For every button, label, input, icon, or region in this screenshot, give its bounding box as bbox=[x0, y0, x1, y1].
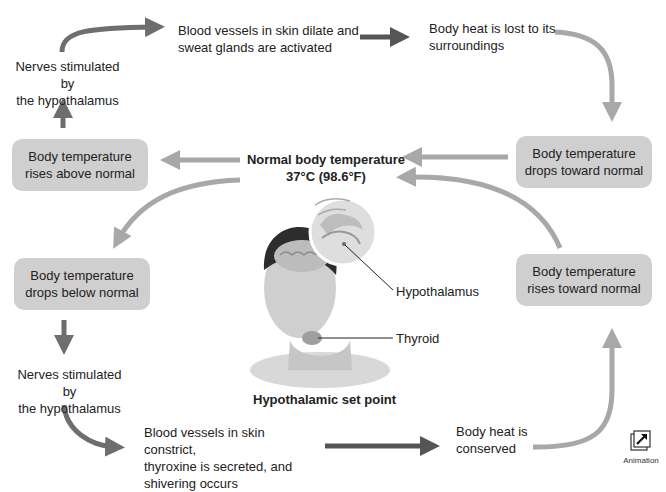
arrow-nerves-to-dilate bbox=[62, 27, 155, 52]
box-text: Body temperature bbox=[25, 267, 138, 284]
thyroid-label: Thyroid bbox=[396, 331, 439, 346]
top-result-text: Body heat is lost to its surroundings bbox=[429, 20, 579, 54]
box-rises-above-normal: Body temperature rises above normal bbox=[12, 139, 148, 191]
box-text: rises above normal bbox=[25, 165, 135, 182]
normal-temperature-label: Normal body temperature 37°C (98.6°F) bbox=[238, 151, 414, 185]
text-line: surroundings bbox=[429, 37, 579, 54]
animation-label: Animation bbox=[619, 456, 663, 465]
text-line: sweat glands are activated bbox=[178, 39, 378, 56]
bottom-nerves-text: Nerves stimulated by the hypothalamus bbox=[12, 366, 127, 417]
text-line: conserved bbox=[456, 440, 546, 457]
top-nerves-text: Nerves stimulated by the hypothalamus bbox=[10, 58, 125, 109]
box-text: drops toward normal bbox=[525, 162, 644, 179]
box-drops-below-normal: Body temperature drops below normal bbox=[14, 258, 150, 310]
text-line: shivering occurs bbox=[144, 475, 319, 492]
diagram-title: Hypothalamic set point bbox=[253, 392, 396, 407]
text-line: Blood vessels in skin constrict, bbox=[144, 424, 319, 458]
animation-button[interactable]: Animation bbox=[619, 430, 663, 465]
text-line: Body heat is lost to its bbox=[429, 20, 579, 37]
box-text: Body temperature bbox=[527, 263, 640, 280]
bottom-response-text: Blood vessels in skin constrict, thyroxi… bbox=[144, 424, 319, 492]
normal-temperature-line2: 37°C (98.6°F) bbox=[238, 168, 414, 185]
box-rises-toward-normal: Body temperature rises toward normal bbox=[516, 254, 652, 306]
box-drops-toward-normal: Body temperature drops toward normal bbox=[516, 136, 652, 188]
text-line: Nerves stimulated by bbox=[10, 58, 125, 92]
external-arrow-icon bbox=[629, 430, 653, 452]
bottom-result-text: Body heat is conserved bbox=[456, 423, 546, 457]
top-response-text: Blood vessels in skin dilate and sweat g… bbox=[178, 22, 378, 56]
box-text: Body temperature bbox=[525, 145, 644, 162]
brain-inset-illustration bbox=[310, 199, 376, 265]
box-text: rises toward normal bbox=[527, 280, 640, 297]
box-text: drops below normal bbox=[25, 284, 138, 301]
hypothalamus-label: Hypothalamus bbox=[396, 284, 479, 299]
text-line: the hypothalamus bbox=[12, 400, 127, 417]
box-text: Body temperature bbox=[25, 148, 135, 165]
normal-temperature-line1: Normal body temperature bbox=[238, 151, 414, 168]
text-line: Nerves stimulated by bbox=[12, 366, 127, 400]
text-line: thyroxine is secreted, and bbox=[144, 458, 319, 475]
text-line: the hypothalamus bbox=[10, 92, 125, 109]
text-line: Body heat is bbox=[456, 423, 546, 440]
text-line: Blood vessels in skin dilate and bbox=[178, 22, 378, 39]
